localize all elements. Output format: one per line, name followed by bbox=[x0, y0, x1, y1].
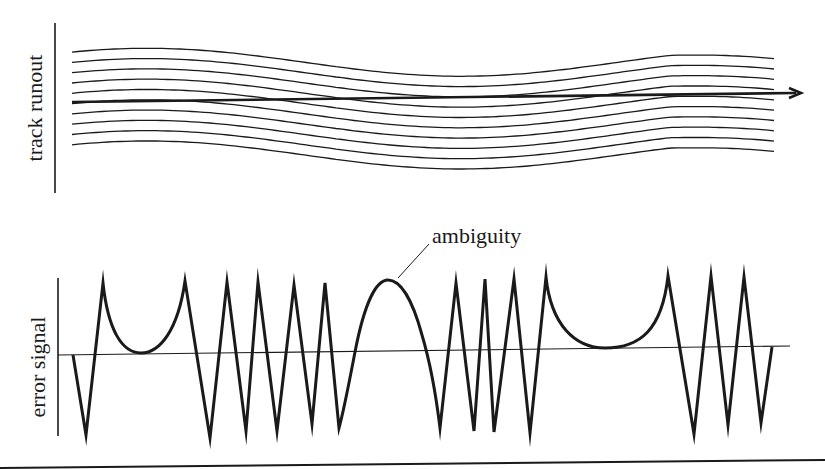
error-signal-label: error signal bbox=[25, 317, 50, 418]
ambiguity-label: ambiguity bbox=[432, 223, 521, 248]
page-bottom-rule bbox=[0, 460, 825, 468]
track-line bbox=[72, 48, 774, 76]
track-line bbox=[72, 59, 774, 87]
error-signal-panel: error signal ambiguity bbox=[25, 223, 790, 438]
track-line bbox=[72, 131, 774, 159]
track-runout-panel: track runout bbox=[22, 23, 801, 193]
track-runout-label: track runout bbox=[22, 55, 47, 162]
track-line bbox=[72, 110, 774, 138]
track-lines bbox=[72, 48, 774, 169]
track-line bbox=[72, 100, 774, 128]
head-path-line bbox=[72, 93, 796, 102]
ambiguity-leader-line bbox=[398, 244, 429, 278]
error-signal-waveform bbox=[73, 276, 772, 438]
track-line bbox=[72, 141, 774, 169]
track-line bbox=[72, 79, 774, 107]
track-line bbox=[72, 120, 774, 148]
runout-error-diagram: track runout error signal ambiguity bbox=[0, 0, 825, 469]
track-line bbox=[72, 69, 774, 97]
